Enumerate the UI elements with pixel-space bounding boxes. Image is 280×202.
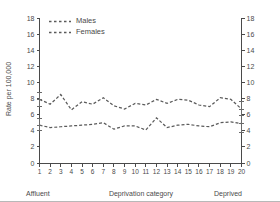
x-tick-label: 20 [238,168,246,175]
affluent-anchor-label: Affluent [26,190,50,197]
error-bar-males-cat20 [239,102,244,116]
x-axis: 1234567891011121314151617181920 [38,163,246,175]
y-tick-label-right: 0 [247,160,251,167]
x-tick-label: 7 [101,168,105,175]
y-tick-label: 4 [31,127,35,134]
x-tick-label: 17 [206,168,214,175]
line-chart: 024681012141618 024681012141618 12345678… [0,0,280,202]
y-tick-label-right: 14 [247,47,255,54]
y-tick-label: 8 [31,95,35,102]
x-tick-label: 5 [80,168,84,175]
chart-figure: 024681012141618 024681012141618 12345678… [0,0,280,202]
chart-title [0,0,280,3]
y-tick-label-right: 8 [247,95,251,102]
x-tick-label: 14 [174,168,182,175]
y-tick-label: 2 [31,143,35,150]
error-bar-females-cat20 [239,115,244,132]
y-tick-label-right: 6 [247,111,251,118]
x-tick-label: 3 [59,168,63,175]
y-tick-label-right: 16 [247,31,255,38]
chart-legend: Males Females [49,16,105,36]
x-tick-label: 6 [91,168,95,175]
deprived-anchor-label: Deprived [214,190,242,198]
x-tick-label: 11 [142,168,149,175]
y-axis-label: Rate per 100,000 [5,62,13,116]
series-line-males [40,95,242,110]
y-tick-label: 16 [27,31,35,38]
y-axis-left: 024681012141618 [27,15,40,167]
y-tick-label: 14 [27,47,35,54]
y-tick-label: 0 [31,160,35,167]
y-tick-label: 18 [27,15,35,22]
x-tick-label: 16 [195,168,203,175]
legend-label-females: Females [76,27,105,36]
y-tick-label: 12 [27,63,35,70]
y-tick-label-right: 2 [247,143,251,150]
x-tick-label: 1 [38,168,42,175]
legend-item-males: Males [49,16,96,25]
y-tick-label-right: 18 [247,15,255,22]
x-tick-label: 8 [112,168,116,175]
y-tick-label-right: 12 [247,63,255,70]
y-tick-label-right: 10 [247,79,255,86]
series-group [40,95,242,130]
error-bar-females-cat1 [37,119,42,131]
x-tick-label: 18 [217,168,225,175]
x-tick-label: 10 [132,168,140,175]
x-tick-label: 4 [70,168,74,175]
x-tick-label: 12 [153,168,161,175]
y-tick-label: 10 [27,79,35,86]
x-tick-label: 2 [48,168,52,175]
error-bar-males-cat1 [37,92,42,107]
x-tick-label: 9 [123,168,127,175]
error-bars-group [37,92,244,132]
legend-label-males: Males [76,16,96,25]
y-tick-label: 6 [31,111,35,118]
x-tick-label: 13 [163,168,171,175]
x-axis-label: Deprivation category [109,190,174,198]
legend-item-females: Females [49,27,105,36]
x-tick-label: 19 [227,168,235,175]
x-tick-label: 15 [185,168,193,175]
y-tick-label-right: 4 [247,127,251,134]
y-axis-right: 024681012141618 [242,15,255,167]
series-line-females [40,118,242,130]
